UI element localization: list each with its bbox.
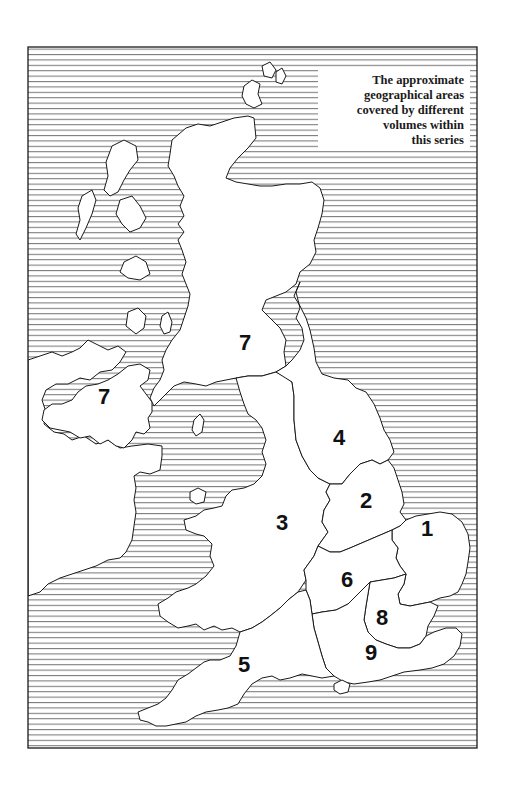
region-label-northern-ireland: 7 (98, 384, 110, 409)
region-label-yorkshire: 4 (333, 425, 346, 450)
legend-line: The approximate (318, 73, 464, 88)
region-label-south-west: 5 (238, 652, 250, 677)
region-label-east-midlands: 2 (360, 488, 372, 513)
region-label-london: 8 (376, 605, 388, 630)
legend-caption: The approximate geographical areas cover… (318, 68, 470, 150)
region-label-south-midlands: 6 (341, 567, 353, 592)
legend-line: volumes within (318, 118, 464, 133)
region-label-south-east: 9 (365, 640, 377, 665)
region-label-scotland: 7 (239, 330, 251, 355)
legend-line: this series (318, 133, 464, 148)
region-label-west: 3 (276, 510, 288, 535)
anglesey (190, 488, 206, 504)
legend-line: covered by different (318, 103, 464, 118)
region-label-east-anglia: 1 (421, 516, 433, 541)
legend-line: geographical areas (318, 88, 464, 103)
